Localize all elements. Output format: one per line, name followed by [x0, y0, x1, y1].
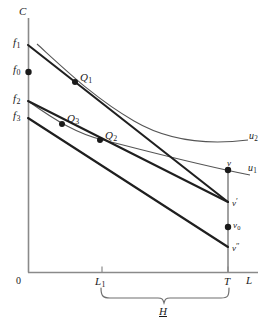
- point-f0: [25, 69, 31, 75]
- origin-label: 0: [16, 276, 21, 286]
- intercept-label-f0: f0: [13, 64, 20, 77]
- equilibrium-label-Q3: Q3: [67, 113, 79, 126]
- endowment-label-v-base: v: [227, 158, 231, 168]
- curve-label-u2-sub: 2: [254, 135, 258, 143]
- hours-brace: [101, 288, 229, 303]
- x-tick-label-T: T: [224, 276, 230, 287]
- endowment-label-v0-sub: 0: [237, 224, 240, 231]
- equilibrium-label-Q1-base: Q: [80, 71, 88, 83]
- point-Q2: [97, 137, 103, 143]
- x-tick-label-L1-sub: 1: [101, 280, 105, 289]
- equilibrium-label-Q2-sub: 2: [113, 134, 117, 143]
- equilibrium-label-Q1: Q1: [80, 72, 92, 85]
- budget-line-f2: [28, 101, 228, 202]
- intercept-label-f2-sub: 2: [16, 97, 20, 106]
- curve-label-u1: u1: [248, 163, 257, 175]
- equilibrium-label-Q3-sub: 3: [75, 117, 79, 126]
- equilibrium-label-Q3-base: Q: [67, 112, 75, 124]
- endowment-label-v0: v0: [233, 221, 240, 231]
- endowment-label-v-prime-mark: ′: [236, 196, 238, 206]
- intercept-label-f2: f2: [13, 93, 20, 106]
- curve-label-u2: u2: [249, 131, 258, 143]
- x-tick-label-T-base: T: [224, 275, 230, 287]
- point-Q1: [72, 79, 78, 85]
- budget-line-f1: [28, 45, 228, 202]
- intercept-label-f3: f3: [13, 110, 20, 123]
- intercept-label-f3-sub: 3: [16, 114, 20, 123]
- equilibrium-label-Q2-base: Q: [105, 129, 113, 141]
- point-Q3: [59, 121, 65, 127]
- x-tick-label-L1: L1: [95, 276, 105, 289]
- hours-brace-label: H: [159, 306, 167, 317]
- equilibrium-label-Q2: Q2: [105, 130, 117, 143]
- endowment-label-v-double-prime: v″: [232, 242, 239, 253]
- x-axis-label: L: [246, 275, 252, 286]
- point-v0: [225, 224, 231, 230]
- intercept-label-f1: f1: [13, 37, 20, 50]
- axis-group: [28, 18, 258, 273]
- intercept-label-f0-sub: 0: [16, 68, 20, 77]
- intercept-label-f1-sub: 1: [16, 41, 20, 50]
- endowment-label-v: v: [227, 159, 231, 168]
- indifference-curve-figure: C L 0 L1 T f1 f0 f2 f3 Q1 Q3 Q2 u2 u1 v: [0, 0, 271, 331]
- indifference-curve-u1: [28, 101, 250, 175]
- endowment-label-v-double-prime-mark: ″: [236, 241, 239, 251]
- budget-line-f3: [28, 118, 228, 247]
- y-axis-label: C: [19, 6, 26, 17]
- equilibrium-label-Q1-sub: 1: [88, 76, 92, 85]
- curve-label-u1-sub: 1: [253, 167, 257, 175]
- endowment-label-v-prime: v′: [232, 197, 238, 208]
